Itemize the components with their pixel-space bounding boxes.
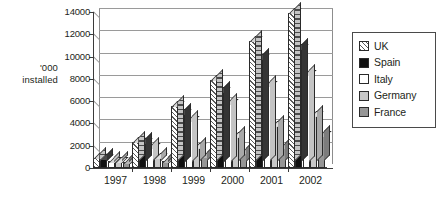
bar-side-face [178, 96, 184, 162]
legend-label-spain: Spain [374, 57, 400, 68]
legend-swatch-spain-icon [359, 58, 369, 68]
x-label-2001: 2001 [260, 174, 283, 186]
bar-side-face [295, 3, 301, 162]
legend-label-france: France [374, 107, 406, 118]
legend-label-uk: UK [374, 41, 388, 52]
bar-side-face [324, 126, 330, 162]
y-axis-title: '000 installed [6, 62, 58, 86]
x-label-2000: 2000 [221, 174, 244, 186]
y-axis-title-line-2: installed [6, 74, 58, 86]
bar-side-face [263, 49, 269, 162]
y-tick-12000: 12000 [52, 30, 90, 40]
bar-side-face [239, 127, 245, 162]
x-label-1997: 1997 [104, 174, 127, 186]
bar-germany-1998 [154, 158, 161, 168]
bar-side-face [217, 70, 223, 162]
legend-item-uk[interactable]: UK [359, 38, 435, 55]
chart-legend: UKSpainItalyGermanyFrance [352, 32, 436, 128]
x-label-1999: 1999 [182, 174, 205, 186]
bar-side-face [270, 76, 276, 162]
x-label-1998: 1998 [143, 174, 166, 186]
legend-swatch-france-icon [359, 107, 369, 117]
plot-area [93, 8, 333, 172]
bar-italy-1997 [108, 161, 115, 168]
y-axis-title-line-1: '000 [6, 62, 58, 74]
y-tick-2000: 2000 [52, 141, 90, 151]
bar-uk-1998 [132, 142, 139, 168]
bar-group-1997 [93, 12, 130, 168]
y-tick-10000: 10000 [52, 52, 90, 62]
bar-side-face [192, 110, 198, 161]
legend-item-france[interactable]: France [359, 104, 435, 121]
y-tick-8000: 8000 [52, 74, 90, 84]
legend-item-germany[interactable]: Germany [359, 88, 435, 105]
category-divider-4 [249, 168, 250, 172]
legend-item-italy[interactable]: Italy [359, 71, 435, 88]
bar-uk-2002 [288, 13, 295, 168]
x-label-2002: 2002 [299, 174, 322, 186]
x-axis-category-labels: 199719981999200020012002 [93, 174, 343, 190]
y-axis-tick-labels: 02000400060008000100001200014000 [52, 0, 90, 206]
bar-side-face [309, 64, 315, 161]
bar-group-2002 [288, 12, 325, 168]
category-divider-5 [288, 168, 289, 172]
legend-swatch-germany-icon [359, 91, 369, 101]
bar-group-2000 [210, 12, 247, 168]
category-divider-1 [132, 168, 133, 172]
bar-side-face [185, 103, 191, 161]
bar-uk-2000 [210, 80, 217, 168]
legend-label-italy: Italy [374, 74, 393, 85]
bar-side-face [231, 93, 237, 161]
legend-label-germany: Germany [374, 90, 416, 101]
bar-side-face [256, 31, 262, 162]
legend-swatch-uk-icon [359, 41, 369, 51]
y-tick-14000: 14000 [52, 7, 90, 17]
legend-item-spain[interactable]: Spain [359, 55, 435, 72]
y-tick-4000: 4000 [52, 119, 90, 129]
bar-chart: '000 installed 0200040006000800010000120… [0, 0, 441, 206]
bar-side-face [278, 116, 284, 162]
category-divider-3 [210, 168, 211, 172]
bar-side-face [224, 81, 230, 161]
bar-uk-2001 [249, 41, 256, 168]
bar-group-1999 [171, 12, 208, 168]
bar-spain-1997 [100, 159, 107, 168]
bar-side-face [302, 39, 308, 162]
bar-france-1998 [162, 161, 169, 168]
bar-group-2001 [249, 12, 286, 168]
legend-swatch-italy-icon [359, 74, 369, 84]
y-tick-6000: 6000 [52, 96, 90, 106]
bar-side-face [317, 106, 323, 162]
legend-items: UKSpainItalyGermanyFrance [359, 38, 435, 121]
bar-france-1997 [123, 162, 130, 168]
bar-germany-1997 [115, 162, 122, 168]
bar-uk-1997 [93, 158, 100, 168]
x-axis-floor-line [93, 168, 333, 169]
bar-group-1998 [132, 12, 169, 168]
bar-uk-1999 [171, 106, 178, 168]
category-divider-2 [171, 168, 172, 172]
y-tick-0: 0 [52, 163, 90, 173]
